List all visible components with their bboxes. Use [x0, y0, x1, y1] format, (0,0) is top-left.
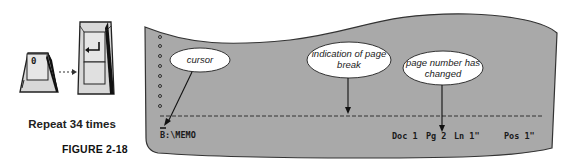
zero-key-icon	[20, 53, 58, 92]
page-break-callout-text: indication of page break	[308, 48, 390, 70]
screen-shape	[145, 14, 557, 158]
status-page: Pg 2	[426, 131, 446, 141]
zero-key-label: 0	[31, 56, 36, 66]
page-break-callout-line1: indication of page	[308, 48, 390, 59]
status-doc: Doc 1	[392, 131, 418, 141]
repeat-caption: Repeat 34 times	[17, 118, 127, 130]
diagram-graphics	[0, 0, 574, 166]
dotted-arrow-icon	[59, 69, 77, 75]
enter-key-icon	[78, 22, 114, 94]
page-break-callout-line2: break	[308, 59, 390, 70]
status-position: Pos 1"	[504, 131, 535, 141]
page-number-callout-line1: page number has	[403, 57, 483, 68]
page-number-callout-text: page number has changed	[403, 57, 483, 79]
file-path: B:\MEMO	[160, 130, 196, 140]
status-line: Ln 1"	[454, 131, 480, 141]
figure-label: FIGURE 2-18	[62, 143, 128, 155]
cursor-callout-text: cursor	[172, 54, 228, 65]
page-number-callout-line2: changed	[403, 68, 483, 79]
